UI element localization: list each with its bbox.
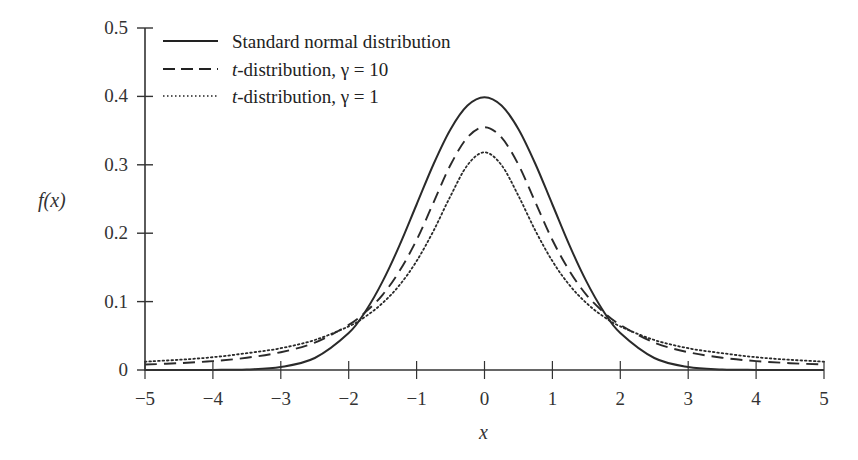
y-tick-label: 0.5 [104,17,128,38]
curve-t-dist-gamma-1 [145,152,824,361]
y-tick-label: 0.4 [104,85,128,106]
x-tick-label: 3 [683,388,693,409]
x-tick-label: 2 [616,388,626,409]
chart-canvas: 00.10.20.30.40.5 −5−4−3−2−1012345 Standa… [0,0,858,460]
x-tick-label: −3 [271,388,291,409]
plot-curves [145,97,824,370]
y-tick-label: 0.1 [104,291,128,312]
x-tick-label: −5 [135,388,155,409]
x-tick-label: −2 [339,388,359,409]
legend-label-normal: Standard normal distribution [232,31,451,52]
x-tick-label: 1 [548,388,558,409]
x-ticks: −5−4−3−2−1012345 [135,361,829,409]
x-tick-label: 5 [819,388,829,409]
axes: 00.10.20.30.40.5 −5−4−3−2−1012345 [104,17,829,409]
x-tick-label: −1 [406,388,426,409]
curve-standard-normal [145,97,824,370]
legend-label-t10: t-distribution, γ = 10 [232,59,388,80]
curve-t-dist-gamma-10 [145,127,824,364]
legend: Standard normal distribution t-distribut… [163,31,451,107]
y-tick-label: 0.3 [104,154,128,175]
x-tick-label: 4 [751,388,761,409]
y-tick-label: 0 [119,359,129,380]
y-axis-label: f(x) [38,189,66,212]
x-tick-label: −4 [203,388,224,409]
x-tick-label: 0 [480,388,490,409]
legend-label-t1: t-distribution, γ = 1 [232,86,379,107]
x-axis-label: x [478,421,488,443]
y-tick-label: 0.2 [104,222,128,243]
